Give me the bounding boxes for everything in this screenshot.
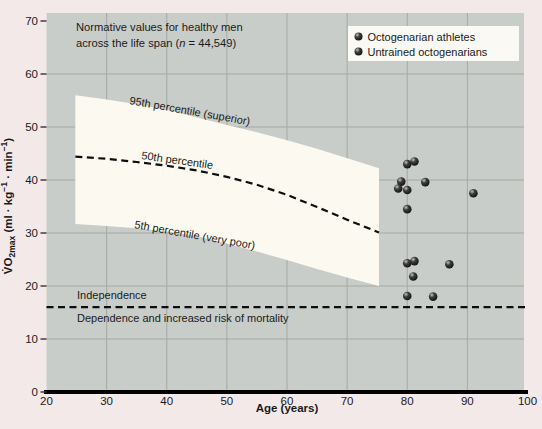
x-tick-label: 90	[461, 395, 474, 407]
untrained-point	[445, 260, 454, 269]
y-tick-label: 70	[25, 15, 38, 27]
legend-label-athletes: Octogenarian athletes	[368, 31, 476, 43]
x-axis-title: Age (years)	[256, 402, 319, 414]
athlete-point	[469, 189, 478, 198]
untrained-point	[403, 292, 412, 301]
untrained-point	[409, 272, 418, 281]
figure: 0102030405060702030405060708090100 Norma…	[0, 0, 542, 429]
y-tick-label: 60	[25, 68, 38, 80]
label-dependence: Dependence and increased risk of mortali…	[77, 312, 289, 324]
vo2max-scatter-chart: 0102030405060702030405060708090100 Norma…	[0, 0, 542, 429]
legend-label-untrained: Untrained octogenarians	[368, 46, 488, 58]
athlete-point	[403, 205, 412, 214]
x-tick-label: 80	[401, 395, 414, 407]
athlete-point	[394, 184, 403, 193]
athlete-point	[421, 178, 430, 187]
y-tick-label: 10	[25, 333, 38, 345]
y-tick-label: 40	[25, 174, 38, 186]
x-tick-label: 40	[160, 395, 173, 407]
x-tick-label: 100	[518, 395, 537, 407]
annotation-line2: across the life span (n = 44,549)	[76, 37, 236, 49]
x-tick-label: 50	[220, 395, 233, 407]
annotation-line1: Normative values for healthy men	[76, 21, 243, 33]
label-independence: Independence	[77, 289, 147, 301]
untrained-point	[410, 257, 419, 266]
legend: Octogenarian athletes Untrained octogena…	[348, 26, 519, 61]
x-tick-label: 70	[341, 395, 354, 407]
y-tick-label: 20	[25, 280, 38, 292]
y-tick-label: 30	[25, 227, 38, 239]
athlete-point	[410, 157, 419, 166]
y-tick-label: 50	[25, 121, 38, 133]
y-tick-label: 0	[32, 386, 38, 398]
x-tick-label: 30	[100, 395, 113, 407]
legend-marker-athletes-icon	[355, 33, 363, 41]
legend-marker-untrained-icon	[355, 48, 363, 56]
untrained-point	[429, 292, 438, 301]
x-tick-label: 20	[40, 395, 53, 407]
athlete-point	[403, 186, 412, 195]
